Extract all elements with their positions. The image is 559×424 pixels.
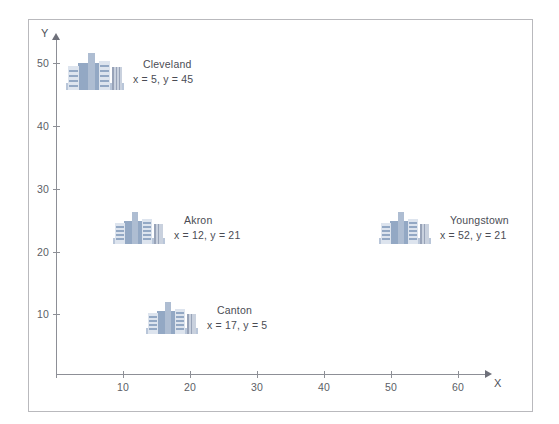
x-ticklabel-3: 40 (318, 381, 330, 393)
x-tick-0 (123, 371, 124, 378)
city-coords-cleveland: x = 5, y = 45 (133, 72, 193, 87)
y-axis-title: Y (41, 27, 49, 39)
city-coords-akron: x = 12, y = 21 (174, 228, 240, 243)
plot-area: X Y 10 20 30 40 50 60 10 20 30 40 50 (0, 0, 559, 424)
x-ticklabel-4: 50 (385, 381, 397, 393)
x-ticklabel-1: 20 (184, 381, 196, 393)
x-tick-4 (391, 371, 392, 378)
city-skyline-icon (379, 212, 431, 244)
city-name-youngstown: Youngstown (440, 213, 509, 228)
x-axis-arrow-icon (485, 370, 492, 378)
x-tick-1 (190, 371, 191, 378)
city-skyline-icon (113, 212, 165, 244)
y-tick-4 (53, 63, 60, 64)
x-ticklabel-2: 30 (251, 381, 263, 393)
city-name-cleveland: Cleveland (133, 56, 193, 71)
x-axis-origin-tick (56, 371, 57, 378)
y-axis-line (56, 40, 57, 375)
city-coords-youngstown: x = 52, y = 21 (440, 228, 509, 243)
data-point-label-canton: Canton x = 17, y = 5 (207, 303, 267, 333)
data-point-label-youngstown: Youngstown x = 52, y = 21 (440, 213, 509, 243)
city-name-akron: Akron (174, 213, 240, 228)
y-tick-0 (53, 314, 60, 315)
x-axis-line (56, 374, 486, 375)
x-tick-2 (257, 371, 258, 378)
city-skyline-icon (66, 53, 124, 90)
y-tick-3 (53, 126, 60, 127)
data-point-canton[interactable]: Canton x = 17, y = 5 (146, 302, 198, 334)
data-point-label-akron: Akron x = 12, y = 21 (174, 213, 240, 243)
y-ticklabel-2: 30 (30, 183, 49, 195)
y-axis-arrow-icon (52, 33, 60, 40)
y-ticklabel-0: 10 (30, 308, 49, 320)
x-tick-5 (458, 371, 459, 378)
data-point-cleveland[interactable]: Cleveland x = 5, y = 45 (66, 53, 124, 90)
y-ticklabel-3: 40 (30, 120, 49, 132)
city-name-canton: Canton (207, 303, 267, 318)
city-coords-canton: x = 17, y = 5 (207, 318, 267, 333)
y-ticklabel-4: 50 (30, 57, 49, 69)
x-ticklabel-5: 60 (452, 381, 464, 393)
data-point-label-cleveland: Cleveland x = 5, y = 45 (133, 56, 193, 86)
data-point-akron[interactable]: Akron x = 12, y = 21 (113, 212, 165, 244)
city-skyline-icon (146, 302, 198, 334)
data-point-youngstown[interactable]: Youngstown x = 52, y = 21 (379, 212, 431, 244)
x-axis-title: X (494, 377, 502, 389)
y-tick-1 (53, 252, 60, 253)
y-ticklabel-1: 20 (30, 246, 49, 258)
x-ticklabel-0: 10 (117, 381, 129, 393)
y-tick-2 (53, 189, 60, 190)
x-tick-3 (324, 371, 325, 378)
